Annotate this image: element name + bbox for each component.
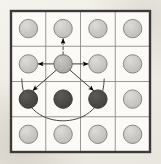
node-row4-col1[interactable]	[19, 125, 37, 143]
node-row4-col3[interactable]	[89, 125, 107, 143]
node-row4-col4[interactable]	[123, 125, 141, 143]
node-row2-col1[interactable]	[19, 55, 37, 73]
node-row1-col4[interactable]	[123, 19, 141, 37]
figure-root	[0, 0, 161, 164]
node-row3-col1[interactable]	[19, 90, 37, 108]
node-row3-col3[interactable]	[89, 90, 107, 108]
node-row1-col3[interactable]	[89, 19, 107, 37]
node-row3-col2[interactable]	[54, 90, 72, 108]
node-row3-col4[interactable]	[123, 90, 141, 108]
node-row1-col2[interactable]	[54, 19, 72, 37]
node-row1-col1[interactable]	[19, 19, 37, 37]
node-row2-col4[interactable]	[123, 55, 141, 73]
node-row2-col3[interactable]	[89, 55, 107, 73]
node-row4-col2[interactable]	[54, 125, 72, 143]
node-row2-col2-source[interactable]	[54, 55, 72, 73]
grid-diagram-svg	[0, 0, 161, 164]
